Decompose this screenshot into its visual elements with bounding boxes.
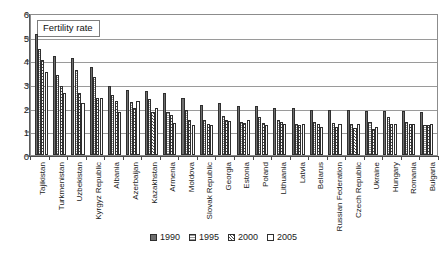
category-label: Russian Federation — [327, 160, 346, 228]
bar-2005 — [100, 98, 103, 155]
bar-2005 — [430, 124, 433, 155]
x-tick-mark — [438, 156, 439, 160]
category-label: Poland — [253, 160, 272, 228]
legend-label: 2005 — [277, 232, 297, 242]
bar-group — [344, 15, 362, 155]
category-label-text: Czech Republic — [355, 162, 363, 218]
bar-2005 — [302, 124, 305, 155]
bar-2005 — [45, 72, 48, 155]
chart-legend: 1990199520002005 — [0, 232, 447, 242]
category-label: Moldova — [178, 160, 197, 228]
category-label: Romania — [401, 160, 420, 228]
legend-label: 1995 — [199, 232, 219, 242]
category-label-text: Uzbekistan — [76, 162, 84, 202]
category-labels: TajikistanTurkmenistanUzbekistanKyrgyz R… — [30, 160, 438, 228]
bar-2005 — [210, 125, 213, 155]
category-label-text: Latvia — [299, 162, 307, 183]
legend-item: 1995 — [189, 232, 219, 242]
bar-2005 — [136, 101, 139, 155]
bar-groups — [31, 15, 437, 155]
legend-swatch-icon — [150, 234, 157, 241]
category-label-text: Turkmenistan — [58, 162, 66, 210]
category-label: Turkmenistan — [49, 160, 68, 228]
category-label: Georgia — [215, 160, 234, 228]
category-label: Tajikistan — [30, 160, 49, 228]
bar-group — [32, 15, 50, 155]
category-label: Armenia — [160, 160, 179, 228]
bar-group — [87, 15, 105, 155]
bar-2005 — [357, 124, 360, 155]
category-label: Lithuania — [271, 160, 290, 228]
bar-2005 — [63, 93, 66, 155]
bar-group — [271, 15, 289, 155]
bar-group — [381, 15, 399, 155]
category-label-text: Belarus — [317, 162, 325, 189]
category-label: Kyrgyz Republic — [86, 160, 105, 228]
bar-group — [252, 15, 270, 155]
plot-area: Fertility rate — [30, 14, 438, 156]
category-label: Azerbaijan — [123, 160, 142, 228]
bar-group — [399, 15, 417, 155]
category-label: Latvia — [290, 160, 309, 228]
bar-group — [161, 15, 179, 155]
category-label-text: Russian Federation — [336, 162, 344, 231]
bar-group — [289, 15, 307, 155]
category-label-text: Romania — [410, 162, 418, 194]
category-label-text: Albania — [113, 162, 121, 189]
category-label-text: Ukraine — [373, 162, 381, 190]
bar-2005 — [338, 124, 341, 155]
bar-group — [50, 15, 68, 155]
category-label-text: Estonia — [243, 162, 251, 189]
category-label-text: Georgia — [225, 162, 233, 190]
category-label-text: Kyrgyz Republic — [95, 162, 103, 220]
category-label-text: Azerbaijan — [132, 162, 140, 200]
bar-group — [142, 15, 160, 155]
bar-2005 — [283, 124, 286, 155]
bar-group — [69, 15, 87, 155]
category-label: Ukraine — [364, 160, 383, 228]
category-label-text: Hungary — [392, 162, 400, 192]
bar-group — [234, 15, 252, 155]
legend-label: 1990 — [160, 232, 180, 242]
category-label-text: Kazakhstan — [151, 162, 159, 204]
y-axis-tick-labels: 0123456 — [0, 0, 29, 254]
category-label: Estonia — [234, 160, 253, 228]
fertility-rate-bar-chart: 0123456 Fertility rate TajikistanTurkmen… — [0, 0, 447, 254]
bar-2005 — [192, 125, 195, 155]
legend-item: 2000 — [228, 232, 258, 242]
bar-2005 — [412, 124, 415, 155]
bar-group — [326, 15, 344, 155]
category-label: Hungary — [382, 160, 401, 228]
legend-label: 2000 — [238, 232, 258, 242]
category-label: Bulgaria — [419, 160, 438, 228]
bar-2005 — [81, 103, 84, 155]
bar-2005 — [228, 121, 231, 155]
category-label: Albania — [104, 160, 123, 228]
bar-group — [362, 15, 380, 155]
category-label: Czech Republic — [345, 160, 364, 228]
bar-group — [418, 15, 436, 155]
bar-2005 — [247, 120, 250, 156]
category-label: Belarus — [308, 160, 327, 228]
bar-2005 — [155, 108, 158, 155]
category-label-text: Tajikistan — [39, 162, 47, 195]
bar-group — [307, 15, 325, 155]
legend-swatch-icon — [267, 234, 274, 241]
bar-group — [179, 15, 197, 155]
category-label: Slovak Republic — [197, 160, 216, 228]
legend-swatch-icon — [228, 234, 235, 241]
category-label-text: Slovak Republic — [206, 162, 214, 219]
category-label-text: Poland — [262, 162, 270, 187]
category-label: Kazakhstan — [141, 160, 160, 228]
bar-2005 — [173, 123, 176, 155]
bar-2005 — [394, 124, 397, 155]
legend-item: 1990 — [150, 232, 180, 242]
legend-item: 2005 — [267, 232, 297, 242]
category-label-text: Bulgaria — [429, 162, 437, 191]
category-label-text: Lithuania — [280, 162, 288, 194]
bar-2005 — [265, 125, 268, 155]
bar-2005 — [375, 127, 378, 155]
bar-group — [216, 15, 234, 155]
bar-2005 — [320, 127, 323, 155]
bar-2005 — [118, 112, 121, 155]
